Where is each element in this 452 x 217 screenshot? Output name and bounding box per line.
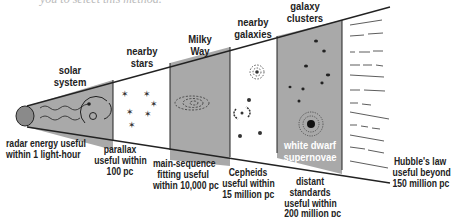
svg-text:✶: ✶ [121, 89, 129, 99]
label-nearby-stars: nearby stars [116, 46, 168, 70]
label-line: stars [116, 58, 168, 70]
label-line: 100 pc [94, 167, 146, 178]
label-line: system [44, 77, 96, 89]
label-line: 200 million pc [284, 209, 336, 217]
label-radar: radar energy useful within 1 light-hour [6, 139, 80, 161]
nearby-galaxies-region [230, 36, 277, 166]
label-galaxy-clusters: galaxy clusters [277, 1, 334, 25]
label-milky-way: Milky Way [174, 34, 226, 58]
cut-off-caption: you to select this method. [40, 0, 162, 7]
label-line: within 10,000 pc [153, 181, 213, 192]
planet-icon [87, 102, 91, 106]
label-line: 150 million pc [392, 179, 447, 190]
svg-text:✶: ✶ [143, 89, 151, 99]
label-line: galaxies [225, 29, 282, 41]
label-main-sequence: main-sequence fitting useful within 10,0… [153, 159, 213, 191]
svg-text:✶: ✶ [126, 107, 134, 117]
label-line: useful within [222, 179, 274, 190]
label-solar-system: solar system [44, 65, 96, 89]
label-line: white dwarf [277, 140, 342, 152]
label-line: within 1 light-hour [6, 150, 80, 161]
label-line: clusters [277, 13, 334, 25]
label-line: useful within [94, 156, 146, 167]
svg-text:✶: ✶ [128, 120, 136, 130]
hubble-flow-lines [350, 20, 389, 168]
label-parallax: parallax useful within 100 pc [94, 145, 146, 177]
label-line: standards [284, 188, 336, 199]
earth-icon [16, 106, 34, 126]
label-hubble-law: Hubble's law useful beyond 150 million p… [392, 157, 447, 189]
svg-text:✶: ✶ [150, 99, 158, 109]
label-line: useful beyond [392, 168, 447, 179]
label-line: 15 million pc [222, 190, 274, 201]
label-nearby-galaxies: nearby galaxies [225, 17, 282, 41]
label-line: fitting useful [153, 170, 213, 181]
label-white-dwarf-supernovae: white dwarf supernovae [277, 140, 342, 163]
label-line: supernovae [277, 152, 342, 164]
label-distant-standards: distant standards useful within 200 mill… [284, 177, 336, 217]
label-cepheids: Cepheids useful within 15 million pc [222, 168, 274, 200]
label-line: Way [174, 46, 226, 58]
svg-text:✶: ✶ [144, 109, 152, 119]
